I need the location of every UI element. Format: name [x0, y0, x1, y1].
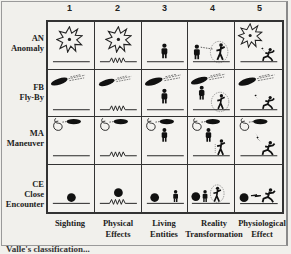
- column-number-5: 5: [236, 3, 283, 13]
- flying-disc-figure-icon: [142, 70, 188, 117]
- landed-sphere-physiological-icon: [235, 165, 282, 213]
- column-label-line: Physical: [93, 218, 143, 229]
- cell-ce-5: [235, 165, 282, 213]
- row-name-2: Encounter: [0, 199, 44, 209]
- cell-ma-5: [235, 117, 282, 165]
- row-name: Maneuver: [0, 138, 44, 148]
- row-code: MA: [0, 128, 44, 138]
- flying-disc-transformation-icon: [188, 70, 234, 117]
- flying-disc-zigzag-icon: [95, 70, 141, 117]
- column-label-line: Sighting: [45, 218, 95, 229]
- row-name: Fly-By: [0, 92, 44, 102]
- row-name: Close: [0, 189, 44, 199]
- star-burst-zigzag-icon: [95, 22, 141, 69]
- column-number-1: 1: [46, 3, 93, 13]
- column-number-4: 4: [189, 3, 236, 13]
- landed-sphere-icon: [48, 165, 94, 213]
- cell-ce-3: [142, 165, 189, 213]
- row-label-close-encounter: CE Close Encounter: [0, 179, 44, 209]
- row-label-flyby: FB Fly-By: [0, 82, 44, 102]
- cell-an-5: [235, 22, 282, 70]
- row-label-maneuver: MA Maneuver: [0, 128, 44, 148]
- column-label-physical-effects: Physical Effects: [93, 218, 143, 240]
- cell-ma-2: [95, 117, 142, 165]
- flying-disc-icon: [48, 70, 94, 117]
- column-number-2: 2: [94, 3, 141, 13]
- column-label-physiological-effect: Physiological Effect: [234, 218, 290, 240]
- cell-ma-3: [142, 117, 189, 165]
- classification-grid: [46, 20, 284, 214]
- standing-figure-icon: [142, 22, 188, 69]
- landed-sphere-zigzag-icon: [95, 165, 141, 213]
- cell-fb-5: [235, 70, 282, 118]
- cell-fb-1: [48, 70, 95, 118]
- star-burst-icon: [48, 22, 94, 69]
- cell-ma-4: [188, 117, 235, 165]
- cell-ce-4: [188, 165, 235, 213]
- row-label-anomaly: AN Anomaly: [0, 33, 44, 53]
- column-number-3: 3: [141, 3, 188, 13]
- cell-an-2: [95, 22, 142, 70]
- flying-disc-physiological-icon: [235, 70, 282, 117]
- row-code: CE: [0, 179, 44, 189]
- physiological-effect-icon: [235, 22, 282, 69]
- looping-disc-icon: [48, 117, 94, 164]
- landed-sphere-figure-icon: [142, 165, 188, 213]
- reality-transformation-icon: [188, 22, 234, 69]
- looping-disc-zigzag-icon: [95, 117, 141, 164]
- cell-fb-4: [188, 70, 235, 118]
- landed-sphere-transformation-icon: [188, 165, 234, 213]
- column-label-line: Physiological: [234, 218, 290, 229]
- column-label-line: Effects: [93, 229, 143, 240]
- cell-ma-1: [48, 117, 95, 165]
- row-code: FB: [0, 82, 44, 92]
- looping-disc-figure-icon: [142, 117, 188, 164]
- cell-ce-2: [95, 165, 142, 213]
- row-code: AN: [0, 33, 44, 43]
- cell-fb-2: [95, 70, 142, 118]
- row-name: Anomaly: [0, 43, 44, 53]
- column-label-line: Effect: [234, 229, 290, 240]
- looping-disc-transformation-icon: [188, 117, 234, 164]
- column-label-sighting: Sighting: [45, 218, 95, 229]
- cell-an-3: [142, 22, 189, 70]
- cell-ce-1: [48, 165, 95, 213]
- figure-caption: Valle's classification...: [6, 244, 90, 254]
- looping-disc-physiological-icon: [235, 117, 282, 164]
- cell-an-1: [48, 22, 95, 70]
- cell-fb-3: [142, 70, 189, 118]
- cell-an-4: [188, 22, 235, 70]
